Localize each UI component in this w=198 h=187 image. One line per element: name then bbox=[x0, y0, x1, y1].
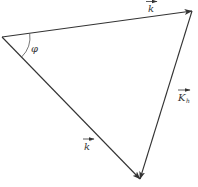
angle-phi-label: φ bbox=[31, 43, 38, 54]
label-k: k bbox=[148, 3, 154, 14]
label-k-prime-superscript: ′ bbox=[90, 139, 92, 147]
vector-k-arrow bbox=[2, 11, 192, 37]
label-K-h: K bbox=[177, 92, 186, 103]
vector-triangle-diagram: φ k K h k ′ bbox=[0, 0, 198, 187]
angle-phi-arc bbox=[22, 33, 30, 57]
vector-k-prime-arrow bbox=[2, 37, 140, 179]
label-K-h-subscript: h bbox=[186, 97, 190, 104]
